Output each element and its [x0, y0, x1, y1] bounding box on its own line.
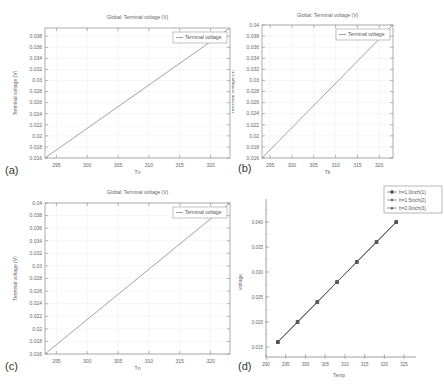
chart-a: Global: Terminal voltage (V)295300305310… — [0, 0, 232, 185]
x-tick-label: 300 — [83, 358, 92, 364]
y-tick-label: 0.04 — [249, 22, 259, 28]
y-tick-label: 0.026 — [246, 99, 259, 105]
legend-entry: Terminal voltage — [185, 34, 222, 40]
y-tick-label: 0.038 — [29, 212, 42, 218]
x-axis-label: Tn — [135, 365, 141, 371]
legend: Terminal voltage — [336, 29, 390, 40]
y-tick-label: 0.034 — [29, 55, 42, 61]
y-tick-label: 0.016 — [29, 155, 42, 161]
y-tick-label: 0.036 — [246, 44, 259, 50]
x-tick-label: 320 — [381, 362, 389, 367]
x-tick-label: 305 — [114, 358, 123, 364]
y-tick-label: 0.035 — [252, 245, 264, 250]
y-tick-label: 0.034 — [246, 55, 259, 61]
x-tick-label: 300 — [83, 162, 92, 168]
y-tick-label: 0.032 — [29, 250, 42, 256]
x-tick-label: 300 — [288, 162, 297, 168]
y-tick-label: 0.024 — [246, 110, 259, 116]
y-tick-label: 0.024 — [29, 300, 42, 306]
y-tick-label: 0.016 — [246, 155, 259, 161]
y-tick-label: 0.02 — [32, 326, 42, 332]
y-tick-label: 0.018 — [246, 144, 259, 150]
x-tick-label: 305 — [321, 362, 329, 367]
x-tick-label: 295 — [52, 358, 61, 364]
x-tick-label: 310 — [331, 162, 340, 168]
y-axis-label: voltage — [237, 274, 243, 290]
x-tick-label: 320 — [206, 358, 215, 364]
chart-d: 2902953003053103153203250.0150.0200.0250… — [232, 185, 444, 391]
y-tick-label: 0.018 — [29, 338, 42, 344]
y-tick-label: 0.038 — [29, 33, 42, 39]
y-tick-label: 0.022 — [246, 122, 259, 128]
x-axis-label: Tk — [325, 169, 331, 175]
y-tick-label: 0.03 — [32, 263, 42, 269]
y-tick-label: 0.04 — [32, 200, 42, 206]
y-tick-label: 0.024 — [29, 111, 42, 117]
x-tick-label: 305 — [310, 162, 319, 168]
chart-title: Global: Terminal voltage (V) — [107, 189, 169, 195]
x-tick-label: 305 — [114, 162, 123, 168]
x-tick-label: 320 — [375, 162, 384, 168]
y-tick-label: 0.028 — [29, 275, 42, 281]
y-tick-label: 0.036 — [29, 225, 42, 231]
y-axis-label: Terminal voltage (V) — [232, 69, 235, 114]
legend: h=1.0inch(1)h=1.5inch(2)h=2.0inch(3) — [384, 186, 442, 213]
y-tick-label: 0.026 — [29, 288, 42, 294]
x-axis-label: Tn — [135, 169, 141, 175]
x-tick-label: 315 — [353, 162, 362, 168]
y-axis-label: Terminal voltage (V) — [12, 256, 18, 301]
x-axis-label: Temp — [333, 372, 345, 378]
x-tick-label: 315 — [176, 358, 185, 364]
y-tick-label: 0.025 — [252, 295, 264, 300]
y-tick-label: 0.032 — [246, 66, 259, 72]
x-tick-label: 325 — [400, 362, 408, 367]
y-tick-label: 0.028 — [246, 88, 259, 94]
legend-entry: h=1.5inch(2) — [399, 198, 426, 203]
chart-title: Global: Terminal voltage (V) — [107, 14, 169, 20]
y-tick-label: 0.034 — [29, 238, 42, 244]
y-tick-label: 0.022 — [29, 313, 42, 319]
x-tick-label: 295 — [52, 162, 61, 168]
y-tick-label: 0.03 — [249, 77, 259, 83]
chart-c: Global: Terminal voltage (V)295300305310… — [0, 185, 232, 391]
x-tick-label: 315 — [176, 162, 185, 168]
y-tick-label: 0.028 — [29, 88, 42, 94]
legend-entry: h=2.0inch(3) — [399, 206, 426, 211]
x-tick-label: 310 — [341, 362, 349, 367]
y-tick-label: 0.018 — [29, 144, 42, 150]
chart-b: Global: Terminal voltage (V)295300305310… — [232, 0, 444, 185]
y-tick-label: 0.030 — [252, 270, 264, 275]
x-tick-label: 310 — [145, 162, 154, 168]
legend-entry: h=1.0inch(1) — [399, 190, 426, 195]
chart-title: Global: Terminal voltage (V) — [297, 12, 359, 18]
x-tick-label: 295 — [282, 362, 290, 367]
y-tick-label: 0.020 — [252, 320, 264, 325]
y-tick-label: 0.015 — [252, 345, 264, 350]
y-tick-label: 0.036 — [29, 44, 42, 50]
y-tick-label: 0.02 — [249, 133, 259, 139]
x-tick-label: 320 — [206, 162, 215, 168]
x-tick-label: 310 — [145, 358, 154, 364]
y-tick-label: 0.026 — [29, 99, 42, 105]
y-tick-label: 0.03 — [32, 77, 42, 83]
legend-entry: Terminal voltage — [348, 31, 385, 37]
y-tick-label: 0.032 — [29, 66, 42, 72]
y-axis-label: Terminal voltage (V) — [12, 70, 18, 115]
legend-entry: Terminal voltage — [185, 209, 222, 215]
y-tick-label: 0.038 — [246, 33, 259, 39]
x-tick-label: 295 — [266, 162, 275, 168]
y-tick-label: 0.022 — [29, 122, 42, 128]
y-tick-label: 0.02 — [32, 133, 42, 139]
legend: Terminal voltage — [173, 32, 227, 43]
x-tick-label: 315 — [361, 362, 369, 367]
y-tick-label: 0.016 — [29, 351, 42, 357]
x-tick-label: 290 — [262, 362, 270, 367]
legend: Terminal voltage — [173, 207, 227, 218]
y-tick-label: 0.040 — [252, 220, 264, 225]
x-tick-label: 300 — [302, 362, 310, 367]
